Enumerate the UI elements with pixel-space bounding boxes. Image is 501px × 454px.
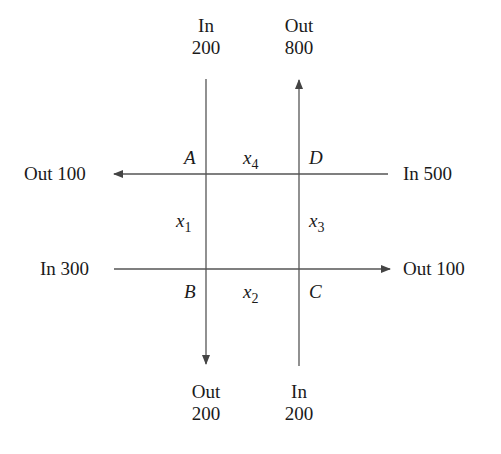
variable-x4: x4 bbox=[243, 147, 258, 169]
flow-lines bbox=[0, 0, 501, 454]
flow-top-right: Out 800 bbox=[279, 15, 319, 59]
node-a: A bbox=[184, 147, 196, 169]
variable-x2: x2 bbox=[243, 281, 258, 303]
variable-x3: x3 bbox=[309, 210, 324, 232]
flow-top-left: In 200 bbox=[186, 15, 226, 59]
flow-right-bottom: Out 100 bbox=[403, 258, 465, 280]
flow-direction: In bbox=[279, 381, 319, 403]
flow-direction: In bbox=[186, 15, 226, 37]
node-b: B bbox=[184, 281, 196, 303]
flow-bottom-left: Out 200 bbox=[186, 381, 226, 425]
node-d: D bbox=[309, 147, 323, 169]
variable-x1: x1 bbox=[176, 210, 191, 232]
flow-left-bottom: In 300 bbox=[40, 258, 89, 280]
flow-direction: Out bbox=[186, 381, 226, 403]
flow-direction: Out bbox=[279, 15, 319, 37]
flow-value: 200 bbox=[186, 403, 226, 425]
flow-value: 200 bbox=[279, 403, 319, 425]
flow-value: 200 bbox=[186, 37, 226, 59]
flow-left-top: Out 100 bbox=[24, 163, 86, 185]
flow-right-top: In 500 bbox=[403, 163, 452, 185]
flow-value: 800 bbox=[279, 37, 319, 59]
node-c: C bbox=[309, 281, 322, 303]
flow-bottom-right: In 200 bbox=[279, 381, 319, 425]
